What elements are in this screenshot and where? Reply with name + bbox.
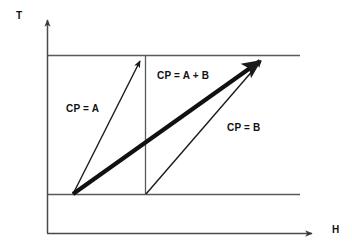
enthalpy-axis-label: H <box>332 225 340 235</box>
th-vector-diagram <box>0 0 352 250</box>
temperature-axis-label: T <box>16 11 22 21</box>
vector-label-cp-a-plus-b: CP = A + B <box>157 71 209 81</box>
diagram-canvas: T H CP = A CP = A + B CP = B <box>0 0 352 250</box>
axes-group <box>47 20 312 234</box>
vector-label-cp-b: CP = B <box>227 123 261 133</box>
vector-cp-a <box>73 61 140 194</box>
vector-label-cp-a: CP = A <box>66 104 99 114</box>
